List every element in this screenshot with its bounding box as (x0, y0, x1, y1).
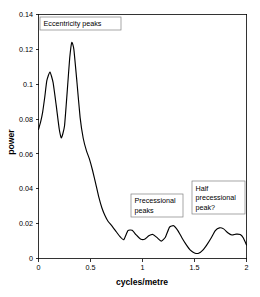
y-tick-label: 0.08 (19, 115, 33, 124)
y-tick-label: 0.06 (19, 150, 33, 159)
annotation-label: Precessional (135, 196, 177, 205)
x-tick-label: 2 (245, 263, 249, 272)
x-tick-label: 0 (37, 263, 41, 272)
chart-background (0, 0, 260, 297)
annotation-half-precessional-peak: Halfprecessionalpeak? (192, 181, 245, 214)
annotation-label: Eccentricity peaks (44, 19, 102, 28)
x-tick-label: 1.5 (190, 263, 200, 272)
annotation-label: precessional (196, 193, 237, 202)
annotation-precessional-peaks: Precessionalpeaks (131, 194, 183, 217)
y-tick-label: 0.04 (19, 184, 33, 193)
figure-container: 00.020.040.060.080.10.120.14 00.511.52 p… (0, 0, 260, 297)
x-tick-label: 1 (141, 263, 145, 272)
annotation-eccentricity-peaks: Eccentricity peaks (40, 17, 121, 30)
y-tick-label: 0.12 (19, 45, 33, 54)
x-axis-title: cycles/metre (116, 277, 168, 287)
y-tick-label: 0.02 (19, 219, 33, 228)
y-tick-label: 0.14 (19, 10, 33, 19)
y-axis-title: power (6, 129, 16, 155)
power-spectrum-chart: 00.020.040.060.080.10.120.14 00.511.52 p… (0, 0, 260, 297)
annotation-label: Half (196, 184, 209, 193)
y-tick-label: 0.1 (23, 80, 33, 89)
annotation-label: peaks (135, 206, 155, 215)
x-tick-label: 0.5 (86, 263, 96, 272)
annotation-label: peak? (196, 203, 216, 212)
y-tick-label: 0 (29, 254, 33, 263)
